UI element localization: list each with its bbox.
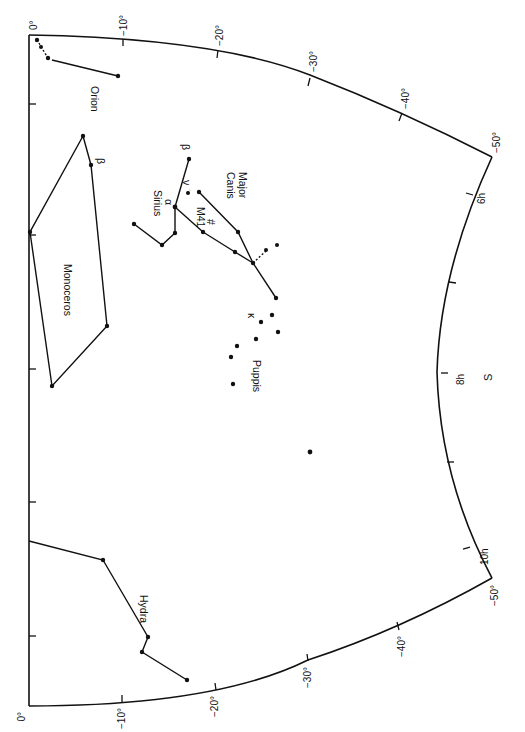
constellation-label-major: Major [237, 172, 249, 199]
star-chart: 0° −10° −20° −30° −40° −50° 0° −10° −20°… [0, 0, 525, 732]
star-label-beta-cma: β [180, 144, 192, 150]
constellation-lines [29, 43, 276, 680]
star-label-nu: ν [181, 180, 193, 185]
star-label-alpha: α [163, 199, 175, 205]
dec-label-bottom-10: −10° [116, 708, 127, 729]
ra-label-8h: 8h [455, 374, 466, 385]
star-label-beta-mon: β [95, 158, 107, 164]
dec-label-bottom-50: −50° [489, 585, 500, 606]
ra-label-10h: 10h [479, 548, 490, 565]
constellation-label-puppis: Puppis [251, 360, 263, 392]
dec-label-bottom-40: −40° [396, 636, 407, 657]
dec-label-top-30: −30° [308, 51, 319, 72]
ticks [29, 39, 473, 702]
m41-cluster-symbol: # [205, 219, 217, 225]
dec-label-top-10: −10° [118, 15, 129, 36]
dec-label-top-20: −20° [214, 25, 225, 46]
direction-label-south: S [482, 374, 494, 381]
constellation-label-canis: Canis [225, 172, 237, 199]
star-label-sirius: Sirius [152, 190, 164, 216]
dec-label-top-0: 0° [28, 20, 39, 30]
star-label-kappa: κ [246, 313, 258, 319]
dec-label-top-50: −50° [491, 132, 502, 153]
constellation-label-hydra: Hydra [138, 595, 150, 623]
dec-label-bottom-30: −30° [302, 667, 313, 688]
dec-label-top-40: −40° [400, 88, 411, 109]
constellation-label-monoceros: Monoceros [62, 264, 74, 316]
stars [28, 38, 313, 682]
dec-label-bottom-0: 0° [16, 712, 27, 722]
right-arc [437, 157, 492, 578]
dec-label-bottom-20: −20° [209, 696, 220, 717]
bottom-arc [29, 578, 492, 706]
constellation-label-orion: Orion [89, 86, 101, 112]
ra-label-6h: 6h [476, 193, 487, 204]
